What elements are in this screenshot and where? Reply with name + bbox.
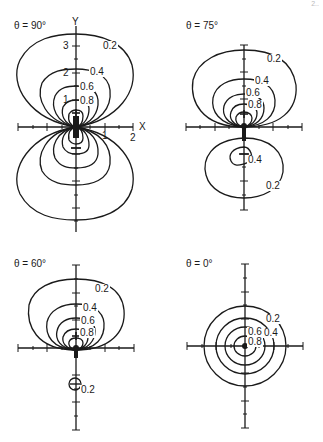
- contour-label-0.6: 0.6: [80, 316, 96, 326]
- contour-label-0.4: 0.4: [82, 303, 98, 313]
- y-tick-2: 2: [63, 68, 69, 78]
- contour-label-0.2: 0.2: [102, 41, 118, 51]
- contour-label-0.4: 0.4: [89, 67, 105, 77]
- contour-label-lower-0.2: 0.2: [265, 181, 281, 191]
- panel-theta-90: [17, 26, 133, 232]
- contour-label-0.2: 0.2: [265, 314, 281, 324]
- contour-label-0.4: 0.4: [254, 76, 270, 86]
- contour-label-0.8: 0.8: [247, 337, 263, 347]
- x-tick-1: 1: [102, 131, 108, 141]
- contour-label-0.8: 0.8: [247, 100, 263, 110]
- contour-label-lower-0.4: 0.4: [247, 155, 263, 165]
- contour-label-0.8: 0.8: [79, 328, 95, 338]
- contour-label-0.8: 0.8: [79, 96, 95, 106]
- x-tick-2: 2: [130, 133, 136, 143]
- panel-theta-75: [186, 45, 302, 210]
- contour-label-0.2: 0.2: [266, 54, 282, 64]
- contour-label-lower-0.2: 0.2: [80, 385, 96, 395]
- y-axis-label: Y: [72, 17, 79, 27]
- panel-title-theta-60: θ = 60°: [14, 259, 46, 269]
- panel-theta-60: [18, 265, 134, 430]
- contour-label-0.2: 0.2: [94, 284, 110, 294]
- panel-theta-0: [187, 264, 303, 428]
- y-tick-3: 3: [63, 41, 69, 51]
- contour-label-0.6: 0.6: [79, 82, 95, 92]
- contour-figure: [0, 0, 323, 442]
- panel-title-theta-0: θ = 0°: [186, 259, 213, 269]
- x-axis-label: X: [139, 122, 146, 132]
- y-tick-1: 1: [63, 95, 69, 105]
- contour-label-0.4: 0.4: [263, 328, 279, 338]
- panel-title-theta-90: θ = 90°: [14, 21, 46, 31]
- panel-title-theta-75: θ = 75°: [186, 21, 218, 31]
- contour-label-0.6: 0.6: [245, 88, 261, 98]
